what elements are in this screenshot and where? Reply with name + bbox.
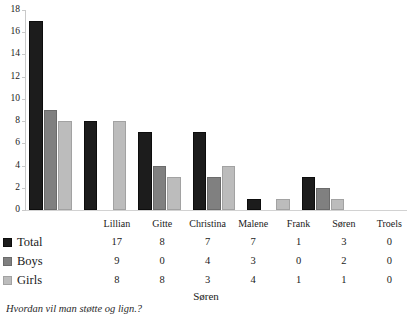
bar-group [29,10,72,210]
category-label-christina: Christina [185,215,231,233]
bars-layer [25,10,407,210]
cell-total-troels: 0 [367,233,412,252]
cell-girls-lillian: 8 [94,271,139,290]
cell-boys-malene: 3 [230,252,275,271]
legend-item-boys: Boys [0,252,94,271]
category-label-frank: Frank [276,215,321,233]
bar-malene-total [193,132,207,210]
legend-item-total: Total [0,233,94,252]
bar-frank-girls [276,199,290,210]
y-tick-label-12: 12 [0,72,20,82]
y-tick-mark-0 [22,210,26,211]
bar-group [356,10,399,210]
bar-group [84,10,127,210]
cell-total-søren: 3 [321,233,366,252]
y-tick-label-18: 18 [0,5,20,15]
figure-caption: Hvordan vil man støtte og lign.? [6,303,406,314]
cell-boys-søren: 2 [321,252,366,271]
cell-girls-gitte: 8 [140,271,185,290]
category-label-lillian: Lillian [94,215,139,233]
y-tick-label-8: 8 [0,116,20,126]
cell-total-frank: 1 [276,233,321,252]
y-tick-label-14: 14 [0,49,20,59]
bar-frank-total [247,199,261,210]
table-row: Total17877130 [0,233,412,252]
legend-label: Girls [17,273,42,287]
cell-girls-søren: 1 [321,271,366,290]
y-tick-label-16: 16 [0,27,20,37]
table-header-row: LillianGitteChristinaMaleneFrankSørenTro… [0,215,412,233]
y-tick-label-10: 10 [0,94,20,104]
legend-swatch-icon-girls [3,276,12,285]
y-tick-label-6: 6 [0,138,20,148]
cell-boys-christina: 4 [185,252,231,271]
bar-christina-total [138,132,152,210]
bar-christina-girls [167,177,181,210]
bar-malene-boys [207,177,221,210]
bar-gitte-girls [113,121,127,210]
legend-swatch-icon-total [3,238,12,247]
plot-area: 181614121086420 [0,0,412,215]
cell-boys-lillian: 9 [94,252,139,271]
table-corner-cell [0,215,94,233]
cell-boys-troels: 0 [367,252,412,271]
y-tick-label-4: 4 [0,161,20,171]
bar-søren-girls [331,199,345,210]
category-label-gitte: Gitte [140,215,185,233]
cell-boys-gitte: 0 [140,252,185,271]
cell-boys-frank: 0 [276,252,321,271]
bar-group [247,10,290,210]
table-row: Boys9043020 [0,252,412,271]
category-label-troels: Troels [367,215,412,233]
bar-gitte-total [84,121,98,210]
bar-søren-boys [316,188,330,210]
bar-christina-boys [153,166,167,210]
data-table-area: LillianGitteChristinaMaleneFrankSørenTro… [0,215,412,293]
x-axis-title: Søren [0,290,412,302]
bar-malene-girls [222,166,236,210]
bar-lillian-girls [58,121,72,210]
bar-søren-total [302,177,316,210]
bar-group [138,10,181,210]
legend-swatch-icon-boys [3,257,12,266]
bar-lillian-total [29,21,43,210]
cell-girls-christina: 3 [185,271,231,290]
y-tick-label-2: 2 [0,183,20,193]
legend-label: Total [17,235,43,249]
cell-girls-frank: 1 [276,271,321,290]
category-label-malene: Malene [230,215,275,233]
y-tick-label-0: 0 [0,205,20,215]
cell-total-malene: 7 [230,233,275,252]
cell-total-lillian: 17 [94,233,139,252]
x-axis-baseline [25,210,407,211]
legend-label: Boys [17,254,43,268]
category-label-søren: Søren [321,215,366,233]
table-row: Girls8834110 [0,271,412,290]
legend-item-girls: Girls [0,271,94,290]
bar-lillian-boys [44,110,58,210]
cell-girls-troels: 0 [367,271,412,290]
cell-girls-malene: 4 [230,271,275,290]
cell-total-christina: 7 [185,233,231,252]
data-table: LillianGitteChristinaMaleneFrankSørenTro… [0,215,412,290]
bar-group [302,10,345,210]
bar-group [193,10,236,210]
cell-total-gitte: 8 [140,233,185,252]
